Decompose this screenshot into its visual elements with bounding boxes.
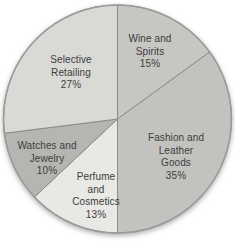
pie-slice-selective-retailing [4, 5, 118, 133]
pie-chart [0, 0, 235, 244]
pie-chart-figure: Wine andSpirits15%Fashion andLeatherGood… [0, 0, 235, 244]
